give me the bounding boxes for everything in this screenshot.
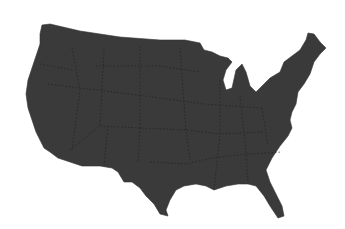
us-landmass <box>26 24 326 218</box>
us-map <box>0 0 345 229</box>
